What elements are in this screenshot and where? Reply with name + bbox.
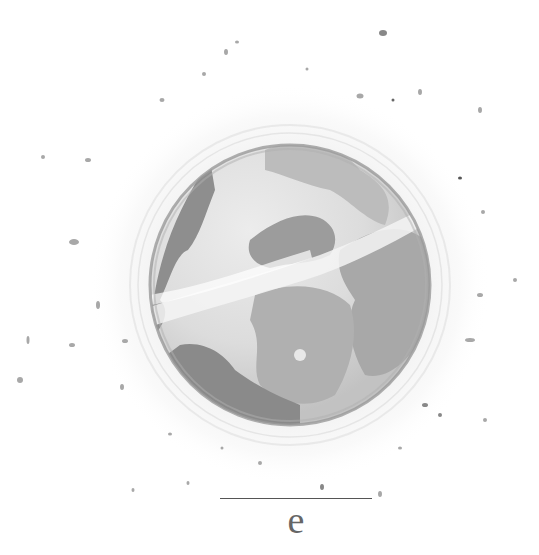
caption-letter: e: [270, 500, 322, 540]
illustration-canvas: e: [0, 0, 539, 555]
planet-illustration: [0, 0, 539, 555]
